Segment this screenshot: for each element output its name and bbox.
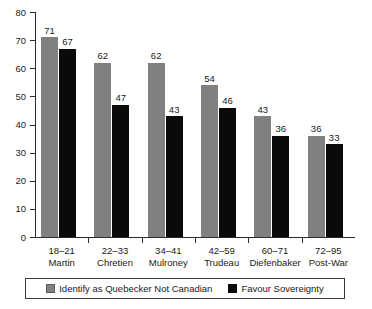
bar-value-label: 62 [151,51,162,61]
bar-quebecker: 62 [148,63,165,237]
x-axis-tick [142,238,143,243]
x-axis-category-label: 60–71Diefenbaker [248,245,301,268]
bar-value-label: 43 [258,105,269,115]
bar-value-label: 46 [222,96,233,106]
legend-label-sovereignty: Favour Sovereignty [241,284,323,294]
category-range: 72–95 [302,245,355,257]
x-axis-category-label: 34–41Mulroney [142,245,195,268]
category-name: Martin [35,257,88,269]
bar-quebecker: 36 [308,136,325,237]
y-axis-tick-label: 80 [15,8,26,18]
y-axis-tick-label: 40 [15,120,26,130]
bar-group: 5446 [195,12,248,237]
y-axis-tick-label: 70 [15,36,26,46]
bar-quebecker: 71 [41,37,58,237]
x-axis-tick [248,238,249,243]
bar-sovereignty: 47 [112,105,129,237]
category-name: Chretien [88,257,141,269]
y-axis-tick-label: 30 [15,148,26,158]
category-name: Trudeau [195,257,248,269]
bar-value-label: 71 [44,26,55,36]
category-range: 18–21 [35,245,88,257]
x-axis-category-label: 72–95Post-War [302,245,355,268]
legend-entry-sovereignty: Favour Sovereignty [228,284,323,294]
chart-legend: Identify as Quebecker Not Canadian Favou… [25,278,345,299]
category-name: Diefenbaker [248,257,301,269]
plot-area: 716762476243544643363633 [35,12,355,237]
x-axis-tick [195,238,196,243]
x-axis-category-label: 22–33Chretien [88,245,141,268]
bar-quebecker: 43 [254,116,271,237]
x-axis-tick [88,238,89,243]
bar-value-label: 36 [311,124,322,134]
y-axis-tick-label: 0 [21,233,26,243]
bar-value-label: 54 [204,74,215,84]
bar-quebecker: 62 [94,63,111,237]
y-axis-tick-label: 50 [15,92,26,102]
bar-sovereignty: 67 [59,49,76,237]
category-name: Post-War [302,257,355,269]
x-axis-tick [302,238,303,243]
bar-group: 7167 [35,12,88,237]
bar-sovereignty: 43 [166,116,183,237]
y-axis-tick-label: 60 [15,64,26,74]
legend-entry-quebecker: Identify as Quebecker Not Canadian [46,284,212,294]
category-range: 22–33 [88,245,141,257]
category-range: 60–71 [248,245,301,257]
category-range: 42–59 [195,245,248,257]
bar-chart: 01020304050607080 7167624762435446433636… [0,0,372,309]
x-axis-category-label: 42–59Trudeau [195,245,248,268]
bar-group: 6243 [142,12,195,237]
bar-sovereignty: 46 [219,108,236,237]
bar-sovereignty: 36 [272,136,289,237]
category-range: 34–41 [142,245,195,257]
legend-swatch-icon-sovereignty [228,284,237,293]
bar-value-label: 47 [116,93,127,103]
y-axis-tick-label: 10 [15,205,26,215]
bar-group: 6247 [88,12,141,237]
bar-value-label: 43 [169,105,180,115]
legend-swatch-icon-quebecker [46,284,55,293]
bar-value-label: 36 [276,124,287,134]
x-axis-category-label: 18–21Martin [35,245,88,268]
legend-label-quebecker: Identify as Quebecker Not Canadian [59,284,212,294]
category-name: Mulroney [142,257,195,269]
bar-sovereignty: 33 [326,144,343,237]
bar-quebecker: 54 [201,85,218,237]
bar-group: 3633 [302,12,355,237]
bar-group: 4336 [248,12,301,237]
y-axis-tick: 0 [30,237,35,238]
y-axis-tick-label: 20 [15,177,26,187]
bar-value-label: 62 [98,51,109,61]
bar-value-label: 33 [329,133,340,143]
bar-value-label: 67 [62,37,73,47]
